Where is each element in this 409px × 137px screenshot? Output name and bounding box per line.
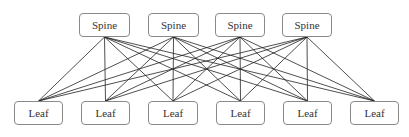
spine-node-2: Spine bbox=[148, 13, 199, 37]
link-line bbox=[307, 37, 375, 101]
leaf-node-3: Leaf bbox=[148, 101, 198, 125]
spine-node-1: Spine bbox=[79, 13, 130, 37]
link-line bbox=[39, 37, 105, 101]
leaf-node-4: Leaf bbox=[216, 101, 265, 125]
link-line bbox=[39, 37, 174, 101]
spine-node-3: Spine bbox=[215, 13, 265, 37]
leaf-node-2: Leaf bbox=[81, 101, 130, 125]
link-line bbox=[39, 37, 241, 101]
leaf-node-6: Leaf bbox=[350, 101, 399, 125]
leaf-node-1: Leaf bbox=[14, 101, 63, 125]
leaf-node-5: Leaf bbox=[283, 101, 332, 125]
spine-node-4: Spine bbox=[282, 13, 332, 37]
link-line bbox=[307, 37, 308, 101]
